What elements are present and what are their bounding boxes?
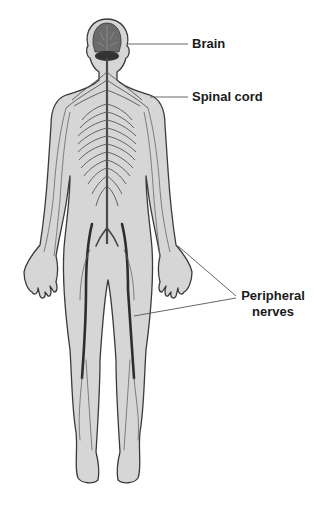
body-figure [0, 0, 314, 506]
peripheral-nerves-label: Peripheral nerves [238, 288, 308, 320]
peripheral-label-line2: nerves [238, 304, 308, 320]
brain-label: Brain [192, 36, 225, 52]
spinal-cord-label: Spinal cord [192, 89, 263, 105]
nervous-system-diagram: Brain Spinal cord Peripheral nerves [0, 0, 314, 506]
peripheral-label-line1: Peripheral [238, 288, 308, 304]
brain-icon [93, 23, 121, 61]
